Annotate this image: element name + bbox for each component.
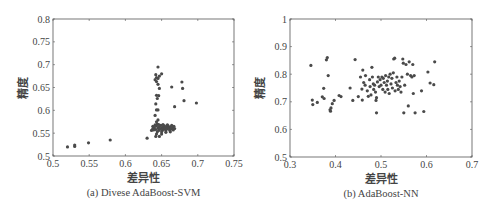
data-point xyxy=(323,97,326,100)
data-point xyxy=(361,99,364,102)
data-point xyxy=(354,58,357,61)
x-tick-label: 0.7 xyxy=(466,159,479,170)
data-point xyxy=(383,81,386,84)
data-point xyxy=(66,145,69,148)
data-point xyxy=(382,77,385,80)
data-point xyxy=(367,95,370,98)
data-point xyxy=(170,85,173,88)
data-point xyxy=(152,128,155,131)
data-point xyxy=(333,99,336,102)
data-point xyxy=(377,75,380,78)
data-point xyxy=(432,83,435,86)
data-point xyxy=(161,123,164,126)
data-point xyxy=(364,74,367,77)
data-point xyxy=(384,91,387,94)
data-point xyxy=(166,123,169,126)
data-point xyxy=(329,110,332,113)
data-point xyxy=(404,63,407,66)
data-point xyxy=(155,108,158,111)
data-point xyxy=(180,80,183,83)
chart-b: 0.30.40.50.60.70.50.60.70.80.91差异性精度(b) … xyxy=(250,0,496,204)
data-point xyxy=(157,123,160,126)
data-point xyxy=(164,131,167,134)
y-tick-label: 0.8 xyxy=(275,69,288,80)
data-point xyxy=(349,86,352,89)
data-point xyxy=(422,110,425,113)
y-tick-label: 0.5 xyxy=(275,152,288,163)
data-point xyxy=(195,101,198,104)
x-axis-label: 差异性 xyxy=(127,171,160,184)
data-point xyxy=(154,73,157,76)
data-point xyxy=(399,85,402,88)
y-tick-label: 0.75 xyxy=(33,36,51,47)
data-point xyxy=(357,95,360,98)
data-point xyxy=(387,75,390,78)
data-point xyxy=(386,80,389,83)
y-tick-label: 0.8 xyxy=(38,14,51,25)
data-point xyxy=(385,84,388,87)
y-tick-label: 0.9 xyxy=(275,41,288,52)
data-point xyxy=(160,130,163,133)
data-point xyxy=(414,111,417,114)
data-point xyxy=(339,95,342,98)
data-point xyxy=(399,91,402,94)
data-point xyxy=(389,73,392,76)
data-point xyxy=(368,78,371,81)
data-point xyxy=(411,63,414,66)
data-point xyxy=(426,70,429,73)
data-point xyxy=(371,75,374,78)
data-point xyxy=(322,87,325,90)
chart-a: 0.50.550.60.650.70.750.50.550.60.650.70.… xyxy=(0,0,250,204)
data-point xyxy=(406,73,409,76)
y-tick-label: 0.7 xyxy=(38,59,51,70)
data-point xyxy=(374,91,377,94)
data-point xyxy=(362,81,365,84)
data-point xyxy=(372,88,375,91)
plot-frame xyxy=(290,19,472,157)
data-point xyxy=(155,94,158,97)
x-tick-label: 0.75 xyxy=(225,158,243,169)
data-point xyxy=(160,72,163,75)
x-tick-label: 0.4 xyxy=(329,159,342,170)
data-point xyxy=(109,138,112,141)
data-point xyxy=(390,77,393,80)
data-point xyxy=(173,127,176,130)
data-point xyxy=(173,105,176,108)
data-point xyxy=(433,60,436,63)
x-tick-label: 0.65 xyxy=(153,158,171,169)
data-point xyxy=(379,78,382,81)
chart-caption: (b) AdaBoost-NN xyxy=(344,188,419,200)
data-point xyxy=(156,65,159,68)
y-tick-label: 0.6 xyxy=(275,124,288,135)
data-point xyxy=(392,71,395,74)
data-point xyxy=(361,69,364,72)
data-point xyxy=(156,130,159,133)
data-point xyxy=(156,97,159,100)
data-point xyxy=(402,111,405,114)
data-point xyxy=(376,80,379,83)
data-point xyxy=(401,57,404,60)
y-axis-label: 精度 xyxy=(16,76,29,99)
y-tick-label: 0.5 xyxy=(38,151,51,162)
data-point xyxy=(73,143,76,146)
data-point xyxy=(329,106,332,109)
data-point xyxy=(398,80,401,83)
data-point xyxy=(366,89,369,92)
scatter-plot-a: 0.50.550.60.650.70.750.50.550.60.650.70.… xyxy=(0,0,250,204)
data-point xyxy=(359,75,362,78)
data-point xyxy=(412,92,415,95)
data-point xyxy=(156,83,159,86)
data-point xyxy=(146,137,149,140)
data-point xyxy=(155,76,158,79)
data-point xyxy=(396,84,399,87)
data-point xyxy=(331,102,334,105)
data-point xyxy=(364,84,367,87)
data-point xyxy=(374,99,377,102)
data-point xyxy=(391,86,394,89)
x-tick-label: 0.6 xyxy=(119,158,132,169)
data-point xyxy=(311,99,314,102)
data-point xyxy=(311,103,314,106)
data-point xyxy=(158,87,161,90)
data-point xyxy=(384,74,387,77)
data-point xyxy=(379,84,382,87)
